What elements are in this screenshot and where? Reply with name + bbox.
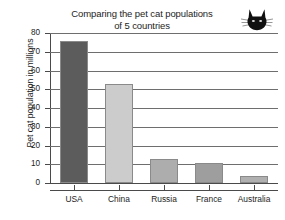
y-tick-label-0: 0 bbox=[14, 178, 40, 187]
y-tick-mark-50 bbox=[45, 89, 50, 90]
bar-china[interactable] bbox=[105, 84, 133, 183]
y-tick-label-10: 10 bbox=[14, 159, 40, 168]
y-tick-mark-0 bbox=[45, 183, 50, 184]
y-tick-label-30: 30 bbox=[14, 122, 40, 131]
y-tick-mark-10 bbox=[45, 164, 50, 165]
y-tick-mark-60 bbox=[45, 71, 50, 72]
x-tick-mark-france bbox=[209, 185, 210, 191]
y-tick-label-70: 70 bbox=[14, 47, 40, 56]
x-tick-mark-usa bbox=[74, 185, 75, 191]
plot-area bbox=[50, 33, 278, 183]
x-tick-mark-china bbox=[119, 185, 120, 191]
bar-chart-figure: Comparing the pet cat populations of 5 c… bbox=[0, 0, 285, 220]
x-tick-mark-russia bbox=[164, 185, 165, 191]
y-tick-label-40: 40 bbox=[14, 103, 40, 112]
y-tick-mark-70 bbox=[45, 52, 50, 53]
y-tick-label-50: 50 bbox=[14, 84, 40, 93]
bar-australia[interactable] bbox=[240, 176, 268, 183]
bar-usa[interactable] bbox=[60, 41, 88, 184]
y-tick-label-60: 60 bbox=[14, 66, 40, 75]
y-tick-mark-30 bbox=[45, 127, 50, 128]
gridline-80 bbox=[50, 33, 278, 34]
y-tick-label-20: 20 bbox=[14, 141, 40, 150]
y-tick-label-80: 80 bbox=[14, 28, 40, 37]
x-tick-mark-australia bbox=[254, 185, 255, 191]
gridline-0 bbox=[50, 183, 278, 184]
bar-russia[interactable] bbox=[150, 159, 178, 183]
y-tick-mark-20 bbox=[45, 146, 50, 147]
cat-face-icon bbox=[240, 6, 274, 32]
chart-title-line-1: Comparing the pet cat populations bbox=[48, 8, 236, 20]
y-tick-mark-40 bbox=[45, 108, 50, 109]
x-tick-label-australia: Australia bbox=[226, 194, 282, 204]
bar-france[interactable] bbox=[195, 163, 223, 183]
chart-title-line-2: of 5 countries bbox=[48, 20, 236, 32]
chart-title: Comparing the pet cat populations of 5 c… bbox=[48, 8, 236, 31]
y-tick-mark-80 bbox=[45, 33, 50, 34]
